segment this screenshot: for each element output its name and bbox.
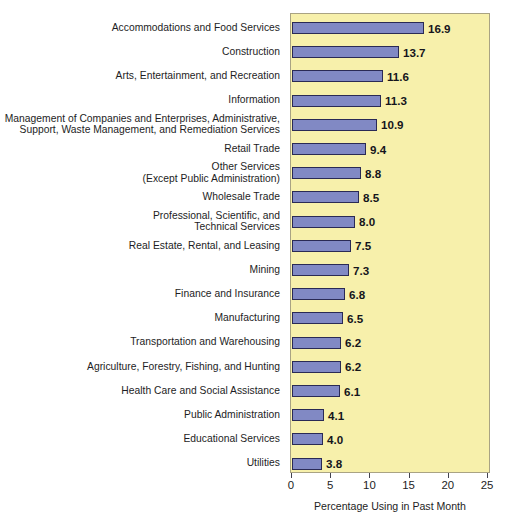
bar xyxy=(292,385,340,397)
bar-value-label: 8.8 xyxy=(365,168,381,180)
category-label: Accommodations and Food Services xyxy=(112,22,280,33)
category-label: Real Estate, Rental, and Leasing xyxy=(129,240,280,251)
x-tick-label: 5 xyxy=(327,479,333,491)
bar-value-label: 8.0 xyxy=(359,216,375,228)
x-tick-mark xyxy=(448,473,449,478)
x-tick-label: 15 xyxy=(402,479,415,491)
category-label: Other Services (Except Public Administra… xyxy=(143,161,280,184)
bar-value-label: 7.5 xyxy=(355,240,371,252)
x-axis-tick-labels: 0510152025 xyxy=(260,479,505,495)
bar xyxy=(292,409,324,421)
bar-value-label: 6.5 xyxy=(347,313,363,325)
category-label: Agriculture, Forestry, Fishing, and Hunt… xyxy=(87,361,280,372)
bars-layer: 16.913.711.611.310.99.48.88.58.07.57.36.… xyxy=(291,14,489,472)
category-label: Retail Trade xyxy=(224,143,280,154)
x-tick-mark xyxy=(369,473,370,478)
bar xyxy=(292,95,381,107)
category-label: Information xyxy=(228,94,280,105)
category-label: Health Care and Social Assistance xyxy=(121,385,280,396)
bar xyxy=(292,264,349,276)
bar-value-label: 4.1 xyxy=(328,410,344,422)
category-label: Transportation and Warehousing xyxy=(130,336,280,347)
bar xyxy=(292,216,355,228)
bar-value-label: 11.3 xyxy=(385,95,407,107)
x-tick-mark xyxy=(409,473,410,478)
x-tick-mark xyxy=(487,473,488,478)
bar xyxy=(292,312,343,324)
bar xyxy=(292,191,359,203)
bar-value-label: 6.2 xyxy=(345,337,361,349)
bar xyxy=(292,143,366,155)
bar xyxy=(292,119,377,131)
category-label: Professional, Scientific, and Technical … xyxy=(153,210,280,233)
bar-value-label: 6.8 xyxy=(349,289,365,301)
category-label: Mining xyxy=(250,264,280,275)
x-axis-title: Percentage Using in Past Month xyxy=(290,500,490,512)
bar-chart: Accommodations and Food ServicesConstruc… xyxy=(0,0,505,521)
bar xyxy=(292,22,424,34)
bar xyxy=(292,70,383,82)
bar-value-label: 6.2 xyxy=(345,361,361,373)
category-label: Construction xyxy=(222,46,280,57)
bar xyxy=(292,167,361,179)
category-axis-labels: Accommodations and Food ServicesConstruc… xyxy=(0,13,286,473)
category-label: Wholesale Trade xyxy=(202,191,280,202)
bar-value-label: 3.8 xyxy=(326,458,342,470)
bar xyxy=(292,458,322,470)
bar-value-label: 13.7 xyxy=(403,47,426,59)
category-label: Finance and Insurance xyxy=(175,288,280,299)
plot-area: 16.913.711.611.310.99.48.88.58.07.57.36.… xyxy=(290,13,490,473)
x-tick-mark xyxy=(330,473,331,478)
bar xyxy=(292,433,323,445)
x-tick-label: 0 xyxy=(288,479,294,491)
bar-value-label: 7.3 xyxy=(353,265,369,277)
bar xyxy=(292,337,341,349)
bar xyxy=(292,240,351,252)
category-label: Educational Services xyxy=(183,433,280,444)
bar xyxy=(292,46,399,58)
bar xyxy=(292,361,341,373)
category-label: Public Administration xyxy=(184,409,280,420)
bar xyxy=(292,288,345,300)
category-label: Manufacturing xyxy=(214,312,280,323)
category-label: Utilities xyxy=(247,457,280,468)
bar-value-label: 10.9 xyxy=(381,119,404,131)
bar-value-label: 8.5 xyxy=(363,192,379,204)
x-tick-mark xyxy=(291,473,292,478)
category-label: Management of Companies and Enterprises,… xyxy=(5,113,280,136)
x-tick-label: 10 xyxy=(363,479,376,491)
bar-value-label: 11.6 xyxy=(387,71,409,83)
bar-value-label: 16.9 xyxy=(428,23,451,35)
category-label: Arts, Entertainment, and Recreation xyxy=(116,70,280,81)
bar-value-label: 4.0 xyxy=(327,434,343,446)
x-tick-label: 25 xyxy=(481,479,494,491)
x-tick-label: 20 xyxy=(441,479,454,491)
bar-value-label: 9.4 xyxy=(370,144,386,156)
bar-value-label: 6.1 xyxy=(344,386,360,398)
